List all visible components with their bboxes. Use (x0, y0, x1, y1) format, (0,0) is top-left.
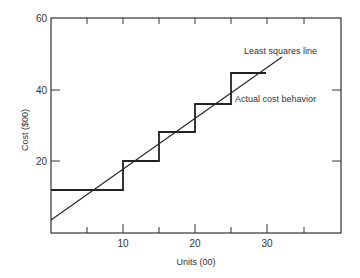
x-tick-label-20: 20 (189, 238, 201, 249)
x-tick-label-30: 30 (261, 238, 273, 249)
y-axis-title: Cost ($00) (20, 109, 30, 151)
annotation-least-squares: Least squares line (244, 46, 317, 56)
x-ticks-bottom (87, 224, 304, 233)
y-tick-label-60: 60 (36, 13, 48, 24)
y-tick-label-20: 20 (36, 156, 48, 167)
x-tick-label-10: 10 (117, 238, 129, 249)
x-ticks-top (87, 18, 304, 24)
annotation-actual-cost: Actual cost behavior (235, 94, 316, 104)
least-squares-line (51, 57, 282, 220)
y-tick-label-40: 40 (36, 85, 48, 96)
chart: 60 40 20 10 20 30 Units (00) Cost ($00) … (0, 0, 360, 278)
x-axis-title: Units (00) (176, 257, 215, 267)
